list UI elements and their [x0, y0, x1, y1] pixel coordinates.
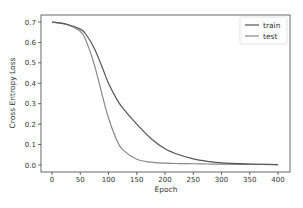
x-tick-label: 200 — [158, 176, 171, 184]
y-tick-label: 0.0 — [25, 162, 36, 170]
y-tick-label: 0.1 — [25, 141, 36, 149]
y-axis-ticks: 0.00.10.20.30.40.50.60.7 — [25, 19, 41, 170]
y-tick-label: 0.4 — [25, 80, 37, 88]
x-tick-label: 150 — [130, 176, 143, 184]
y-tick-label: 0.7 — [25, 19, 36, 27]
loss-chart: 0.00.10.20.30.40.50.60.7 050100150200250… — [0, 0, 303, 208]
x-tick-label: 0 — [50, 176, 54, 184]
x-axis-label: Epoch — [155, 185, 178, 194]
x-tick-label: 350 — [243, 176, 256, 184]
y-tick-label: 0.6 — [25, 39, 37, 47]
y-tick-label: 0.2 — [25, 121, 36, 129]
y-tick-label: 0.3 — [25, 100, 36, 108]
x-tick-label: 50 — [76, 176, 85, 184]
legend-label-test: test — [263, 32, 277, 41]
y-tick-label: 0.5 — [25, 59, 36, 67]
x-tick-label: 100 — [102, 176, 115, 184]
x-tick-label: 400 — [271, 176, 284, 184]
y-axis-label: Cross Entropy Loss — [8, 57, 17, 128]
x-tick-label: 250 — [187, 176, 200, 184]
x-tick-label: 300 — [215, 176, 228, 184]
legend: train test — [240, 17, 287, 44]
x-axis-ticks: 050100150200250300350400 — [50, 172, 285, 184]
legend-label-train: train — [263, 21, 281, 30]
